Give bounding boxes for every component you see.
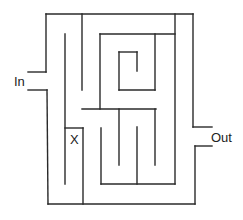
exit-label: Out: [211, 130, 232, 145]
maze-diagram: In Out X: [0, 0, 243, 220]
maze-walls: [28, 14, 212, 204]
marker-x-label: X: [70, 132, 79, 147]
entrance-label: In: [14, 74, 25, 89]
maze-wall-outer-left-lower: [47, 90, 48, 204]
